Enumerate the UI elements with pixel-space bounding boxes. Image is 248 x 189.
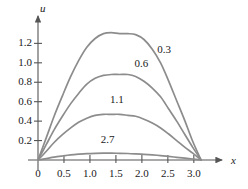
y-tick-label: 0.4 [2, 115, 32, 126]
curve-label-0.3: 0.3 [157, 44, 171, 55]
y-tick-label: 1.0 [2, 57, 32, 68]
x-axis-label: x [231, 155, 236, 166]
chart-figure: 0.20.40.60.81.01.2 00.51.01.52.02.53.0 0… [0, 0, 248, 189]
curve-0.6 [38, 74, 201, 160]
curve-2.7 [38, 153, 201, 160]
y-tick-label: 1.2 [2, 37, 32, 48]
curve-label-2.7: 2.7 [101, 134, 115, 145]
y-tick-label: 0.6 [2, 96, 32, 107]
y-tick-label: 0.8 [2, 76, 32, 87]
curve-label-1.1: 1.1 [110, 94, 124, 105]
y-axis-label: u [40, 3, 46, 14]
plot-canvas [0, 0, 248, 189]
curve-label-0.6: 0.6 [134, 58, 148, 69]
y-tick-label: 0.2 [2, 135, 32, 146]
x-tick-label: 3.0 [179, 168, 209, 179]
